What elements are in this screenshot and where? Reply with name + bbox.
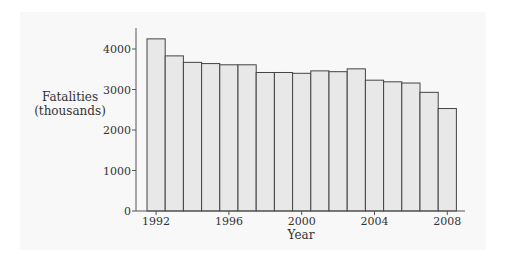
bar-2008 xyxy=(438,109,456,211)
bar-2002 xyxy=(329,72,347,211)
y-tick-label: 0 xyxy=(124,205,131,218)
bar-2007 xyxy=(420,92,438,211)
y-tick-label: 3000 xyxy=(103,84,131,97)
bar-2005 xyxy=(384,82,402,211)
x-tick-label: 2004 xyxy=(361,215,389,228)
bar-2003 xyxy=(347,69,365,211)
bar-1992 xyxy=(147,39,165,211)
x-tick-label: 2000 xyxy=(288,215,316,228)
bar-chart: 0100020003000400019921996200020042008 Fa… xyxy=(0,0,506,265)
y-axis-title-line2: (thousands) xyxy=(34,104,106,118)
bar-1997 xyxy=(238,65,256,211)
y-tick-label: 1000 xyxy=(103,165,131,178)
bar-1993 xyxy=(165,56,183,211)
x-tick-label: 1996 xyxy=(215,215,243,228)
bar-2004 xyxy=(365,80,383,211)
bars-group xyxy=(147,39,456,211)
x-tick-label: 2008 xyxy=(433,215,461,228)
bar-2006 xyxy=(402,83,420,211)
bar-1998 xyxy=(256,72,274,211)
x-axis-title: Year xyxy=(287,228,315,242)
bar-1995 xyxy=(202,64,220,211)
y-tick-label: 2000 xyxy=(103,124,131,137)
bar-1996 xyxy=(220,65,238,211)
bar-1999 xyxy=(274,72,292,211)
bar-2000 xyxy=(293,73,311,211)
y-axis-title-line1: Fatalities xyxy=(42,90,98,104)
bar-2001 xyxy=(311,71,329,211)
bar-1994 xyxy=(183,62,201,211)
y-tick-label: 4000 xyxy=(103,43,131,56)
x-tick-label: 1992 xyxy=(142,215,170,228)
